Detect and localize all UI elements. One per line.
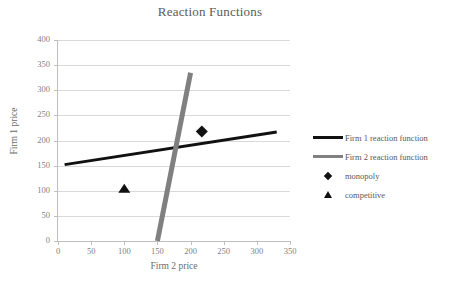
legend-label-firm1: Firm 1 reaction function [345,133,428,143]
reaction-functions-chart: Reaction Functions 050100150200250300350… [0,0,449,286]
legend-label-competitive: competitive [345,190,385,200]
legend-item-firm1[interactable]: Firm 1 reaction function [311,128,447,147]
data-marker-diamond [196,125,208,137]
x-axis-tick [124,241,125,245]
x-axis-tick [224,241,225,245]
legend-key-diamond-icon [311,169,345,183]
x-axis-tick [157,241,158,245]
x-axis-tick [290,241,291,245]
legend-key-triangle-icon [311,188,345,202]
legend-label-monopoly: monopoly [345,171,379,181]
x-axis-tick [58,241,59,245]
x-axis-tick [191,241,192,245]
series-line [65,132,277,165]
x-axis-tick [257,241,258,245]
legend-item-monopoly[interactable]: monopoly [311,166,447,185]
x-axis-tick [91,241,92,245]
y-axis-tick [54,65,58,66]
series-line [157,73,190,241]
legend-key-line-grey [311,150,345,164]
y-axis-tick [54,166,58,167]
y-axis-tick [54,141,58,142]
legend-key-line-dark [311,131,345,145]
legend-label-firm2: Firm 2 reaction function [345,152,428,162]
chart-legend: Firm 1 reaction function Firm 2 reaction… [311,128,447,204]
data-marker-triangle [118,184,130,193]
legend-item-competitive[interactable]: competitive [311,185,447,204]
legend-item-firm2[interactable]: Firm 2 reaction function [311,147,447,166]
y-axis-tick [54,40,58,41]
y-axis-tick [54,216,58,217]
y-axis-tick [54,191,58,192]
y-axis-tick [54,90,58,91]
y-axis-tick [54,115,58,116]
